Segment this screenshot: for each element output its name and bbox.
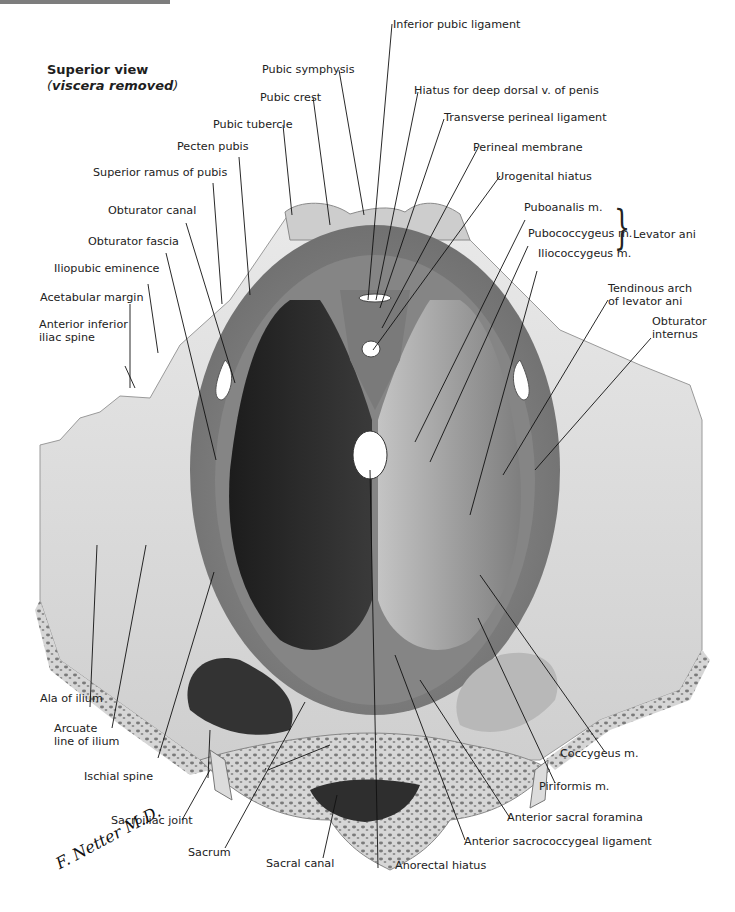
label-anterior-sacrococcygeal-ligament: Anterior sacrococcygeal ligament — [464, 835, 652, 848]
label-pubic-crest: Pubic crest — [260, 91, 321, 104]
label-sacrum: Sacrum — [188, 846, 231, 859]
label-iliopubic-eminence: Iliopubic eminence — [54, 262, 159, 275]
label-sacral-canal: Sacral canal — [266, 857, 334, 870]
label-pubic-tubercle: Pubic tubercle — [213, 118, 293, 131]
label-transverse-perineal-ligament: Transverse perineal ligament — [444, 111, 607, 124]
label-anterior-sacral-foramina: Anterior sacral foramina — [507, 811, 643, 824]
label-anterior-inferior-iliac-spine-line1: Anterior inferior — [39, 318, 128, 331]
label-hiatus-deep-dorsal-vein: Hiatus for deep dorsal v. of penis — [414, 84, 599, 97]
label-pecten-pubis: Pecten pubis — [177, 140, 249, 153]
label-tendinous-arch-line1: Tendinous arch — [608, 282, 692, 295]
label-obturator-internus-line2: internus — [652, 328, 698, 341]
label-obturator-internus-line1: Obturator — [652, 315, 707, 328]
label-ischial-spine: Ischial spine — [84, 770, 153, 783]
label-piriformis: Piriformis m. — [539, 780, 609, 793]
label-anorectal-hiatus: Anorectal hiatus — [395, 859, 486, 872]
label-acetabular-margin: Acetabular margin — [40, 291, 144, 304]
label-obturator-canal: Obturator canal — [108, 204, 196, 217]
levator-ani-brace: } — [614, 204, 630, 250]
label-anterior-inferior-iliac-spine-line2: iliac spine — [39, 331, 95, 344]
label-ala-of-ilium: Ala of ilium — [40, 692, 103, 705]
label-obturator-fascia: Obturator fascia — [88, 235, 179, 248]
label-iliococcygeus: Iliococcygeus m. — [538, 247, 631, 260]
label-inferior-pubic-ligament: Inferior pubic ligament — [393, 18, 520, 31]
label-arcuate-line-line1: Arcuate — [54, 722, 97, 735]
label-puboanalis: Puboanalis m. — [524, 201, 602, 214]
label-superior-ramus-of-pubis: Superior ramus of pubis — [93, 166, 227, 179]
label-pubic-symphysis: Pubic symphysis — [262, 63, 354, 76]
deep-dorsal-vein-hiatus — [359, 294, 391, 302]
label-arcuate-line-line2: line of ilium — [54, 735, 119, 748]
label-levator-ani: Levator ani — [633, 228, 696, 241]
label-urogenital-hiatus: Urogenital hiatus — [496, 170, 592, 183]
label-coccygeus: Coccygeus m. — [560, 747, 639, 760]
label-perineal-membrane: Perineal membrane — [473, 141, 583, 154]
label-tendinous-arch-line2: of levator ani — [608, 295, 682, 308]
